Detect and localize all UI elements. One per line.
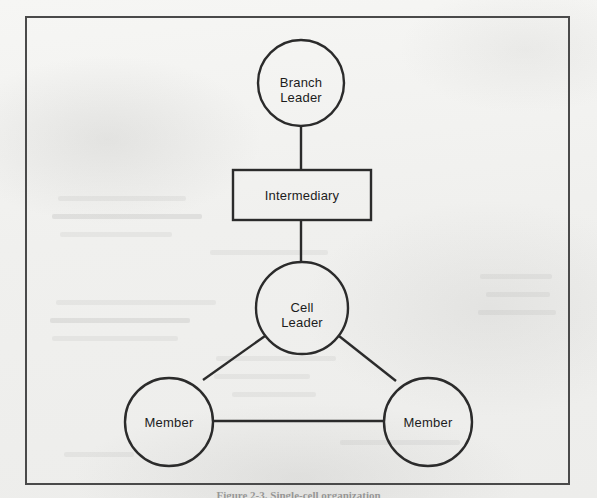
cell-structure-diagram [0,0,597,498]
node-cell-leader [256,262,348,354]
figure-page: Branch Leader Intermediary Cell Leader M… [0,0,597,498]
node-intermediary [233,170,371,220]
figure-caption: Figure 2-3. Single-cell organization [0,489,597,498]
edge-cell-leader-to-member-left [203,336,265,380]
node-branch-leader [258,40,344,126]
node-member-right [384,378,472,466]
edge-cell-leader-to-member-right [339,336,396,381]
node-member-left [125,378,213,466]
diagram-nodes [125,40,472,466]
